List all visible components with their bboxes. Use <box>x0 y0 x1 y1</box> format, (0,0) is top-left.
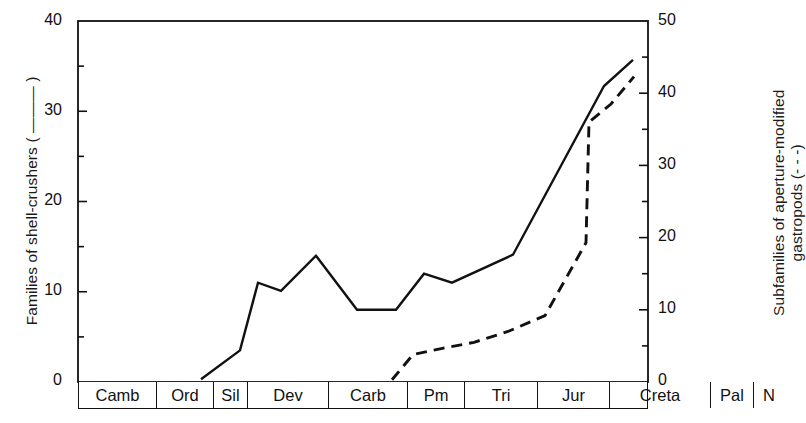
x-axis-period-label: Camb <box>95 386 139 405</box>
y-axis-right-title-line1: Subfamilies of aperture-modified <box>770 90 787 316</box>
x-axis-period-sil: Sil <box>214 382 248 408</box>
y-axis-right-title: Subfamilies of aperture-modified gastrop… <box>770 13 806 393</box>
x-axis-period-label: Creta <box>640 386 680 405</box>
x-axis-period-pm: Pm <box>408 382 465 408</box>
x-axis-period-label: Sil <box>221 386 239 405</box>
x-axis-period-label: Carb <box>350 386 386 405</box>
x-axis-period-label: N <box>763 386 775 405</box>
x-axis-period-tri: Tri <box>465 382 538 408</box>
x-axis-period-label: Tri <box>492 386 511 405</box>
x-axis-period-jur: Jur <box>538 382 610 408</box>
x-axis-period-label: Ord <box>171 386 199 405</box>
x-axis-period-carb: Carb <box>329 382 408 408</box>
x-axis-period-pal: Pal <box>711 382 754 408</box>
x-axis-period-label: Jur <box>562 386 585 405</box>
x-axis-period-dev: Dev <box>248 382 329 408</box>
x-axis-period-label: Dev <box>273 386 302 405</box>
y-axis-right-title-line2: gastropods (- - -) <box>788 13 806 393</box>
x-axis-period-n: N <box>754 382 784 408</box>
x-axis-period-creta: Creta <box>610 382 711 408</box>
plot-frame <box>78 21 648 382</box>
x-axis-period-label: Pal <box>720 386 744 405</box>
x-axis-period-camb: Camb <box>79 382 157 408</box>
x-axis-period-ord: Ord <box>157 382 214 408</box>
x-axis-period-bar: CambOrdSilDevCarbPmTriJurCretaPalN <box>78 382 648 409</box>
x-axis-period-label: Pm <box>424 386 449 405</box>
